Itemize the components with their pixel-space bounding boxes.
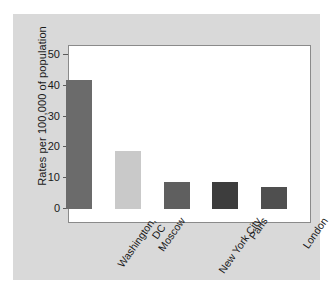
y-tick-label: 0 <box>54 202 60 214</box>
y-tick-label: 30 <box>48 110 60 122</box>
bar <box>115 151 141 210</box>
y-tick-label: 40 <box>48 79 60 91</box>
y-tick-label: 10 <box>48 171 60 183</box>
chart-figure: Rates per 100,000 of population 01020304… <box>0 0 333 293</box>
bar <box>164 182 190 209</box>
bar <box>212 182 238 209</box>
bar <box>261 187 287 209</box>
y-axis-title: Rates per 100,000 of population <box>36 16 48 196</box>
y-tick-label: 50 <box>48 48 60 60</box>
y-tick-mark <box>63 54 68 55</box>
y-tick-label: 20 <box>48 140 60 152</box>
bar <box>66 80 92 209</box>
figure-panel: Rates per 100,000 of population 01020304… <box>13 14 320 280</box>
